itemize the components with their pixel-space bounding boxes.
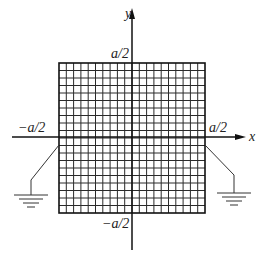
ground-symbol-icon (217, 193, 251, 205)
label-left-neg-a-half: −a/2 (18, 120, 45, 135)
ground-wire (31, 145, 59, 195)
label-right-a-half: a/2 (209, 120, 227, 135)
label-top-a-half: a/2 (111, 46, 129, 61)
ground-wire (205, 145, 234, 193)
ground-left (14, 145, 59, 207)
ground-right (205, 145, 251, 205)
x-axis-arrowhead-icon (235, 134, 246, 140)
y-axis-label: y (123, 6, 132, 21)
x-axis-label: x (248, 129, 256, 144)
grid-plate-diagram: y x a/2 a/2 −a/2 −a/2 (0, 0, 264, 261)
ground-symbol-icon (14, 195, 48, 207)
label-bottom-neg-a-half: −a/2 (102, 216, 129, 231)
